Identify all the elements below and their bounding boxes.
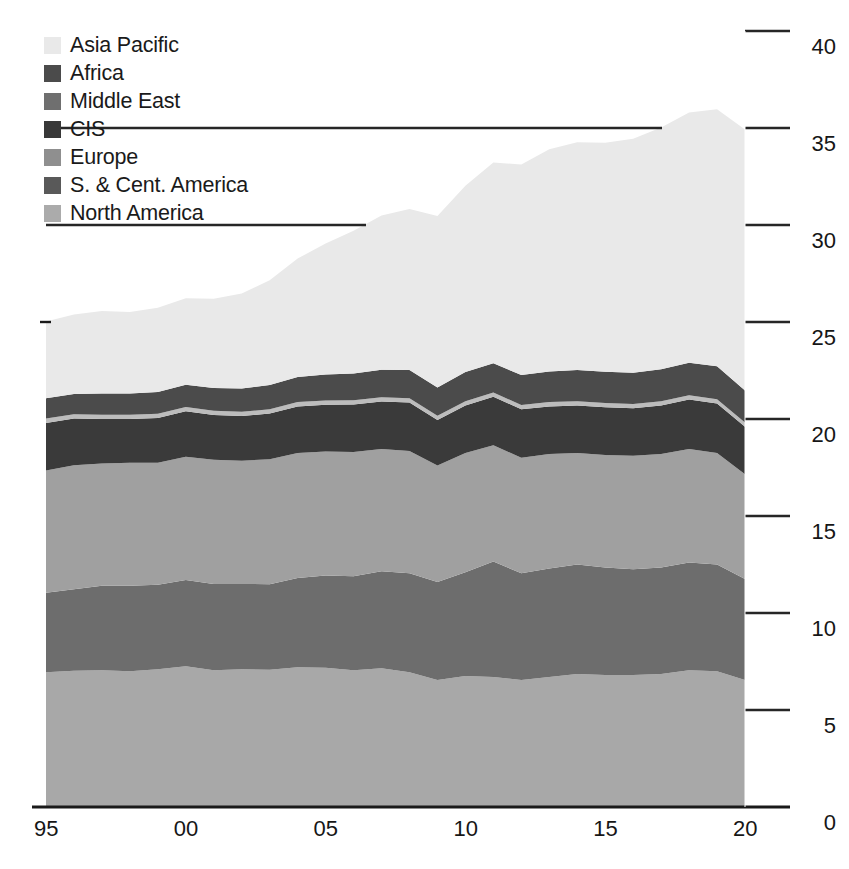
legend-item-europe[interactable]: Europe	[44, 145, 248, 170]
y-tick-label-5: 5	[790, 715, 836, 737]
legend-swatch-icon	[44, 149, 61, 166]
y-tick-label-35: 35	[790, 133, 836, 155]
legend-item-africa[interactable]: Africa	[44, 61, 248, 86]
y-tick-label-15: 15	[790, 521, 836, 543]
chart-legend: Asia Pacific Africa Middle East CIS Euro…	[44, 33, 248, 226]
y-tick-label-40: 40	[790, 36, 836, 58]
legend-swatch-icon	[44, 37, 61, 54]
legend-swatch-icon	[44, 93, 61, 110]
y-tick-label-0: 0	[790, 812, 836, 834]
legend-label: Middle East	[70, 91, 180, 113]
x-tick-label-00: 00	[174, 818, 198, 840]
legend-swatch-icon	[44, 177, 61, 194]
legend-swatch-icon	[44, 65, 61, 82]
legend-label: S. & Cent. America	[70, 175, 248, 197]
y-tick-label-25: 25	[790, 327, 836, 349]
y-tick-label-10: 10	[790, 618, 836, 640]
legend-label: Africa	[70, 63, 124, 85]
legend-item-north-america[interactable]: North America	[44, 201, 248, 226]
legend-label: Asia Pacific	[70, 35, 179, 57]
legend-swatch-icon	[44, 205, 61, 222]
area-series-north-america	[46, 666, 745, 807]
legend-item-cis[interactable]: CIS	[44, 117, 248, 142]
x-tick-label-20: 20	[733, 818, 757, 840]
legend-label: Europe	[70, 147, 138, 169]
legend-label: North America	[70, 203, 204, 225]
x-tick-label-10: 10	[453, 818, 477, 840]
legend-item-s-and-cent-america[interactable]: S. & Cent. America	[44, 173, 248, 198]
x-tick-label-15: 15	[593, 818, 617, 840]
x-tick-label-05: 05	[314, 818, 338, 840]
legend-label: CIS	[70, 119, 105, 141]
legend-item-middle-east[interactable]: Middle East	[44, 89, 248, 114]
legend-swatch-icon	[44, 121, 61, 138]
y-tick-label-30: 30	[790, 230, 836, 252]
legend-item-asia-pacific[interactable]: Asia Pacific	[44, 33, 248, 58]
x-tick-label-95: 95	[34, 818, 58, 840]
stacked-area-chart: Asia Pacific Africa Middle East CIS Euro…	[0, 0, 849, 869]
y-tick-label-20: 20	[790, 424, 836, 446]
